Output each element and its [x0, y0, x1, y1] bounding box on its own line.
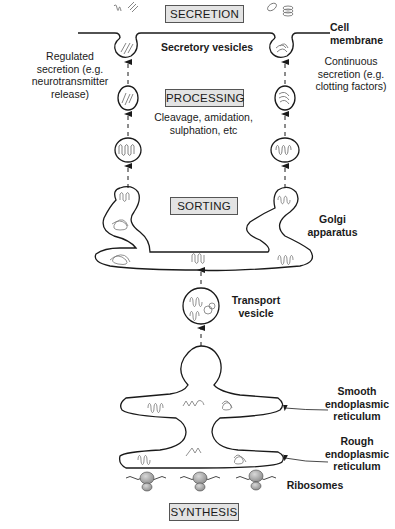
- er-proteins: [138, 401, 246, 465]
- stage-sorting: SORTING: [170, 197, 238, 215]
- stage-processing: PROCESSING: [165, 89, 244, 107]
- label-regulated-secretion: Regulated secretion (e.g. neurotransmitt…: [30, 50, 110, 100]
- label-transport-vesicle: Transport vesicle: [226, 294, 286, 319]
- label-secretory-vesicles: Secretory vesicles: [152, 41, 262, 54]
- cell-membrane: [78, 33, 330, 38]
- label-processing-note: Cleavage, amidation, sulphation, etc: [147, 111, 260, 136]
- ribosomes: [126, 470, 276, 491]
- stage-secretion: SECRETION: [165, 5, 244, 23]
- protein-secretion-pathway-diagram: SECRETION PROCESSING SORTING SYNTHESIS C…: [0, 0, 395, 529]
- label-continuous-secretion: Continuous secretion (e.g. clotting fact…: [310, 55, 392, 93]
- label-rough-er: Rough endoplasmic reticulum: [322, 435, 392, 473]
- transport-vesicle: [183, 288, 219, 324]
- stage-synthesis: SYNTHESIS: [169, 503, 239, 521]
- label-golgi-apparatus: Golgi apparatus: [305, 213, 360, 238]
- label-smooth-er: Smooth endoplasmic reticulum: [322, 385, 392, 423]
- endoplasmic-reticulum: [120, 346, 284, 468]
- label-cell-membrane: Cell membrane: [330, 21, 390, 46]
- label-ribosomes: Ribosomes: [285, 479, 345, 492]
